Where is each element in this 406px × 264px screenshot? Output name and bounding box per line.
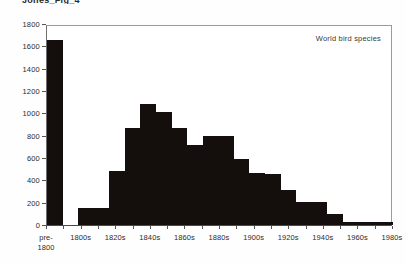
- bar: [47, 40, 63, 225]
- x-tick-mark: [236, 226, 237, 229]
- x-tick-mark: [271, 226, 272, 229]
- x-tick-mark: [98, 226, 99, 229]
- y-tick-label: 1400: [23, 65, 41, 74]
- bar: [358, 222, 374, 225]
- bar: [327, 214, 343, 225]
- x-tick-mark: [375, 226, 376, 229]
- chart-figure: Jones_Fig_4 0200400600800100012001400160…: [0, 0, 406, 264]
- figure-title-clipped: Jones_Fig_4: [22, 0, 142, 4]
- x-tick-label: 1980s: [375, 233, 406, 242]
- x-axis: pre-18001800s1820s1840s1860s1880s1900s19…: [46, 226, 392, 264]
- x-tick-label: 1940s: [306, 233, 340, 242]
- bar: [234, 159, 250, 225]
- y-tick-label: 1200: [23, 87, 41, 96]
- y-tick-label: 800: [27, 132, 40, 141]
- x-tick-mark: [133, 226, 134, 229]
- x-tick-mark: [184, 226, 185, 229]
- y-tick-label: 0: [36, 221, 40, 230]
- bar: [296, 202, 327, 225]
- x-tick-label: 1900s: [237, 233, 271, 242]
- x-tick-mark: [254, 226, 255, 229]
- x-tick-label: 1880s: [202, 233, 236, 242]
- bar: [374, 222, 393, 225]
- plot-area: World bird species: [46, 25, 392, 226]
- bar: [343, 222, 359, 225]
- x-tick-label: pre-1800: [29, 233, 63, 252]
- bar: [78, 208, 109, 225]
- x-tick-mark: [167, 226, 168, 229]
- bar: [249, 173, 265, 225]
- bar: [203, 136, 234, 225]
- x-tick-label: 1840s: [133, 233, 167, 242]
- x-tick-label: 1960s: [340, 233, 374, 242]
- bar: [281, 190, 297, 225]
- y-tick-label: 200: [27, 199, 40, 208]
- bar-series: [47, 26, 391, 225]
- x-tick-label: 1860s: [167, 233, 201, 242]
- x-tick-mark: [392, 226, 393, 229]
- x-tick-mark: [219, 226, 220, 229]
- x-tick-mark: [323, 226, 324, 229]
- bar: [125, 128, 141, 225]
- bar: [172, 128, 188, 225]
- y-tick-label: 1000: [23, 109, 41, 118]
- y-tick-label: 1800: [23, 20, 41, 29]
- x-tick-label: 1820s: [98, 233, 132, 242]
- bar: [156, 112, 172, 225]
- x-tick-mark: [357, 226, 358, 229]
- x-tick-label: 1800s: [64, 233, 98, 242]
- x-tick-label: 1920s: [271, 233, 305, 242]
- x-tick-mark: [202, 226, 203, 229]
- x-tick-mark: [115, 226, 116, 229]
- bar: [109, 171, 125, 225]
- x-tick-mark: [150, 226, 151, 229]
- x-tick-mark: [63, 226, 64, 229]
- x-tick-mark: [288, 226, 289, 229]
- bar: [187, 145, 203, 225]
- bar: [140, 104, 156, 225]
- y-tick-label: 1600: [23, 42, 41, 51]
- x-tick-mark: [340, 226, 341, 229]
- y-axis: 020040060080010001200140016001800: [0, 25, 46, 226]
- x-tick-mark: [46, 226, 47, 229]
- x-tick-mark: [81, 226, 82, 229]
- bar: [265, 174, 281, 225]
- y-tick-label: 600: [27, 154, 40, 163]
- x-tick-mark: [306, 226, 307, 229]
- y-tick-label: 400: [27, 176, 40, 185]
